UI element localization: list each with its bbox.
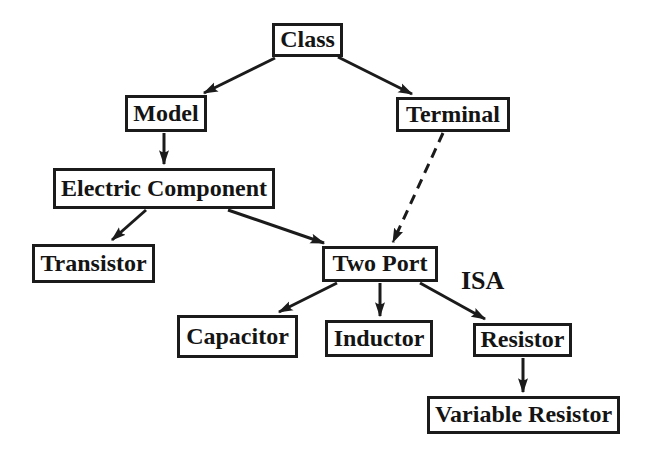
node-variable-resistor: Variable Resistor (427, 396, 620, 434)
node-two-port: Two Port (322, 246, 438, 282)
node-label-capacitor: Capacitor (186, 324, 289, 350)
node-label-terminal: Terminal (406, 102, 500, 128)
node-electric-component: Electric Component (53, 168, 275, 209)
node-label-transistor: Transistor (40, 251, 146, 277)
node-label-resistor: Resistor (481, 327, 565, 353)
node-label-two-port: Two Port (333, 251, 428, 277)
node-class: Class (272, 23, 343, 57)
node-terminal: Terminal (396, 97, 510, 132)
diagram-canvas: ClassModelTerminalElectric ComponentTran… (0, 0, 648, 458)
node-resistor: Resistor (473, 323, 572, 357)
node-model: Model (125, 95, 207, 132)
node-transistor: Transistor (32, 244, 155, 283)
node-label-class: Class (280, 27, 335, 53)
node-capacitor: Capacitor (177, 315, 298, 358)
node-label-electric-component: Electric Component (61, 176, 267, 202)
node-inductor: Inductor (325, 320, 433, 357)
node-label-inductor: Inductor (334, 326, 425, 352)
isa-relationship-label: ISA (461, 268, 504, 294)
nodes-layer: ClassModelTerminalElectric ComponentTran… (0, 0, 648, 458)
node-label-variable-resistor: Variable Resistor (435, 402, 612, 428)
node-label-model: Model (133, 101, 198, 127)
